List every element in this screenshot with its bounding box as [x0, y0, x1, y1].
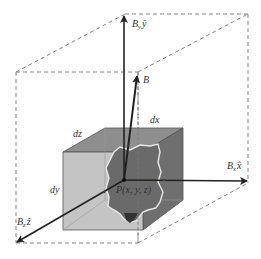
label-b: B: [143, 74, 149, 85]
bz-midpoint-dot: [103, 191, 106, 194]
label-point-p: P(x, y, z): [115, 184, 152, 196]
label-dz: dz: [73, 128, 82, 139]
bx-midpoint-dot: [163, 179, 166, 182]
label-by: Byŷ: [132, 18, 147, 30]
label-bz: Bzẑ: [17, 216, 31, 228]
label-dx: dx: [150, 114, 160, 125]
vector-field-diagram: Byŷ B dx dz dy P(x, y, z) Bxx̂ Bzẑ: [0, 0, 261, 259]
point-p-dot: [122, 178, 126, 182]
bx-vector-arrow: [124, 180, 247, 181]
label-bx: Bxx̂: [227, 160, 242, 172]
label-dy: dy: [50, 184, 60, 195]
by-midpoint-dot: [123, 140, 126, 143]
